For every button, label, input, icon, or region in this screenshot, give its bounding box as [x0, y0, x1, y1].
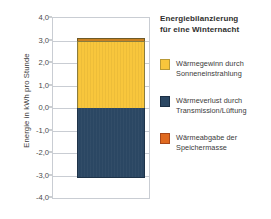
y-axis-tick-label: 1,0 — [15, 80, 49, 89]
y-axis-tick-label: -3,0 — [15, 170, 49, 179]
legend-label-storage-release-line-1: Wärmeabgabe der — [176, 133, 237, 142]
legend-item-heat-loss[interactable]: Wärmeverlust durch Transmission/Lüftung — [160, 96, 271, 116]
legend-swatch-icon-storage-release — [160, 133, 170, 144]
y-axis-tick-label: -1,0 — [15, 125, 49, 134]
plot-area — [52, 17, 150, 199]
legend-swatch-icon-heat-loss — [160, 96, 170, 107]
legend-label-solar-gain-line-2: Sonneneinstrahlung — [176, 69, 242, 78]
stacked-bar[interactable] — [77, 18, 145, 198]
bar-segment-storage-release[interactable] — [77, 38, 145, 40]
legend-label-storage-release: Wärmeabgabe der Speichermasse — [176, 133, 237, 153]
legend-label-solar-gain: Wärmegewinn durch Sonneneinstrahlung — [176, 59, 244, 79]
y-axis-tick-label: 4,0 — [15, 13, 49, 22]
legend-item-storage-release[interactable]: Wärmeabgabe der Speichermasse — [160, 133, 271, 153]
y-axis-tick-label: 0,0 — [15, 103, 49, 112]
chart-title-line-1: Energiebilanzierung — [160, 14, 271, 25]
legend-label-heat-loss-line-2: Transmission/Lüftung — [176, 106, 247, 115]
legend-label-heat-loss-line-1: Wärmeverlust durch — [176, 96, 242, 105]
chart-title-line-2: für eine Winternacht — [160, 25, 271, 36]
y-axis-tick-label: -4,0 — [15, 193, 49, 202]
legend-label-solar-gain-line-1: Wärmegewinn durch — [176, 59, 244, 68]
legend-item-solar-gain[interactable]: Wärmegewinn durch Sonneneinstrahlung — [160, 59, 271, 79]
energy-balance-chart: Energie in kWh pro Stunde 4,03,02,01,00,… — [0, 0, 271, 219]
bar-segment-heat-loss[interactable] — [77, 108, 145, 178]
legend-label-storage-release-line-2: Speichermasse — [176, 143, 227, 152]
legend: Energiebilanzierung für eine Winternacht… — [160, 14, 271, 170]
y-axis-tick-label: 2,0 — [15, 58, 49, 67]
bar-segment-solar-gain[interactable] — [77, 41, 145, 109]
legend-swatch-icon-solar-gain — [160, 59, 170, 70]
y-axis-tick-label: -2,0 — [15, 148, 49, 157]
y-axis-tick-label: 3,0 — [15, 35, 49, 44]
chart-title: Energiebilanzierung für eine Winternacht — [160, 14, 271, 36]
legend-label-heat-loss: Wärmeverlust durch Transmission/Lüftung — [176, 96, 247, 116]
